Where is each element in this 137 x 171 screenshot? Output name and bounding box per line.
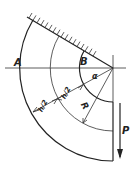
label-h-half-lower: h/2: [37, 99, 50, 114]
fixed-wall: [27, 13, 113, 68]
label-p: P: [122, 125, 130, 136]
label-alpha: α: [92, 72, 98, 81]
curved-beam-diagram: A B α R P h/2 h/2: [0, 0, 137, 171]
middle-arc: [50, 36, 113, 131]
label-b: B: [80, 56, 88, 67]
label-a: A: [13, 57, 22, 68]
label-r: R: [79, 100, 91, 111]
label-h-half-upper: h/2: [60, 86, 73, 101]
